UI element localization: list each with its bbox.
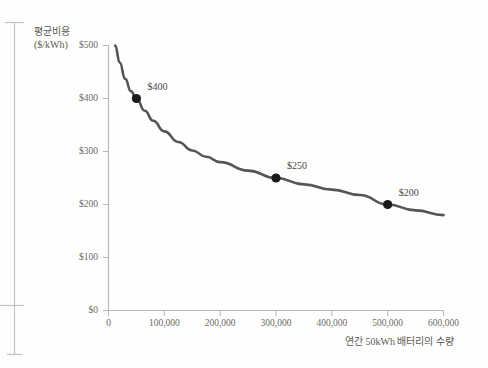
point-annotation-label: $400 <box>147 81 167 92</box>
y-tick-label: $200 <box>56 199 98 209</box>
x-tick-label: 0 <box>79 318 139 328</box>
x-tick-label: 300,000 <box>246 318 306 328</box>
y-axis-title-line1: 평균비용 <box>34 25 70 38</box>
cost-curve-line <box>115 46 443 216</box>
data-point-marker <box>132 94 141 103</box>
data-point-marker <box>383 200 392 209</box>
x-tick-label: 200,000 <box>190 318 250 328</box>
chart-figure: 평균비용 ($/kWh) 연간 50kWh 배터리의 수량 $0$100$200… <box>0 0 488 368</box>
y-tick-label: $400 <box>56 93 98 103</box>
y-tick-label: $0 <box>56 305 98 315</box>
data-point-marker <box>271 173 280 182</box>
y-tick-label: $300 <box>56 146 98 156</box>
x-axis-ticks <box>109 311 444 317</box>
margin-bracket <box>0 22 24 355</box>
x-tick-label: 400,000 <box>302 318 362 328</box>
y-tick-label: $500 <box>56 40 98 50</box>
x-tick-label: 500,000 <box>358 318 418 328</box>
x-tick-label: 600,000 <box>414 318 474 328</box>
point-annotation-label: $200 <box>399 187 419 198</box>
y-tick-label: $100 <box>56 252 98 262</box>
point-annotation-label: $250 <box>287 160 307 171</box>
x-axis-title: 연간 50kWh 배터리의 수량 <box>345 335 454 348</box>
y-axis-ticks <box>103 46 109 311</box>
x-tick-label: 100,000 <box>134 318 194 328</box>
data-point-markers <box>132 94 392 209</box>
